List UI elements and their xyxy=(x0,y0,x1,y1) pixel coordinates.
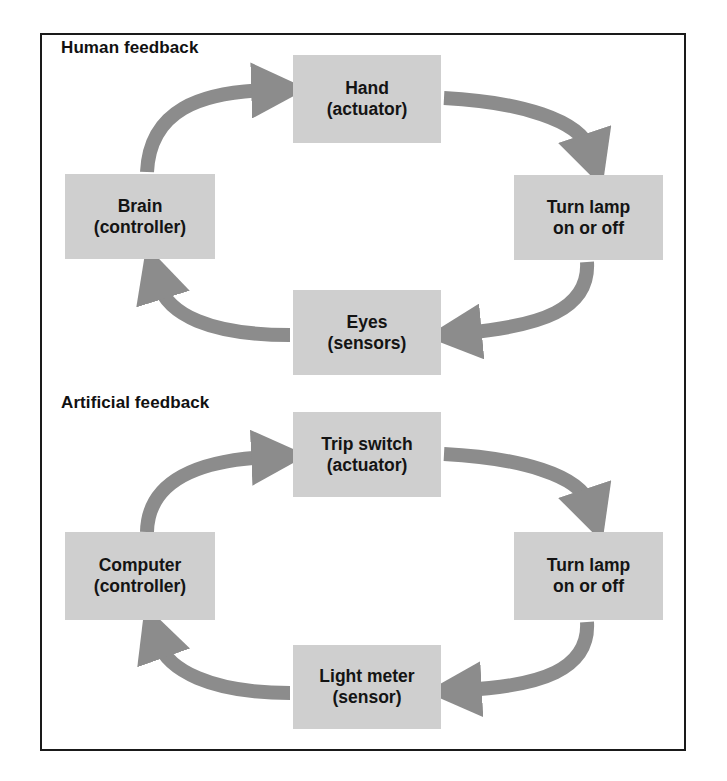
node-sublabel: (controller) xyxy=(94,576,186,597)
node-label: Turn lamp xyxy=(547,555,630,576)
human-process-box: Turn lamp on or off xyxy=(514,175,663,260)
human-sensor-box: Eyes (sensors) xyxy=(293,290,441,375)
node-sublabel: (sensor) xyxy=(332,687,401,708)
node-label: Turn lamp xyxy=(547,197,630,218)
human-actuator-box: Hand (actuator) xyxy=(293,55,441,143)
node-sublabel: (actuator) xyxy=(327,99,408,120)
node-label: Brain xyxy=(118,196,163,217)
artificial-feedback-title: Artificial feedback xyxy=(61,393,209,413)
node-label: Trip switch xyxy=(321,434,412,455)
node-sublabel: (actuator) xyxy=(327,455,408,476)
node-label: Light meter xyxy=(319,666,414,687)
node-sublabel: (sensors) xyxy=(328,333,407,354)
human-feedback-title: Human feedback xyxy=(61,38,198,58)
human-controller-box: Brain (controller) xyxy=(65,174,215,259)
node-label: Hand xyxy=(345,78,389,99)
node-sublabel: on or off xyxy=(553,576,624,597)
node-sublabel: (controller) xyxy=(94,217,186,238)
artificial-process-box: Turn lamp on or off xyxy=(514,532,663,620)
artificial-controller-box: Computer (controller) xyxy=(65,532,215,620)
artificial-sensor-box: Light meter (sensor) xyxy=(293,645,441,729)
node-sublabel: on or off xyxy=(553,218,624,239)
artificial-actuator-box: Trip switch (actuator) xyxy=(293,412,441,497)
node-label: Eyes xyxy=(347,312,388,333)
node-label: Computer xyxy=(99,555,182,576)
